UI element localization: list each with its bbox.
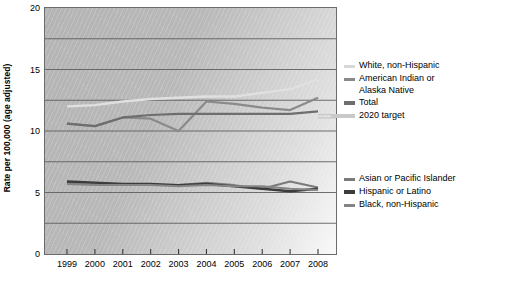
legend-item-label: Asian or Pacific Islander xyxy=(359,173,456,185)
series-lines xyxy=(67,79,318,191)
legend-swatch xyxy=(344,190,355,194)
legend-item-label: White, non-Hispanic xyxy=(359,60,440,72)
legend-swatch xyxy=(344,204,355,207)
legend-swatch xyxy=(344,178,355,181)
legend-item-2020-target: 2020 target xyxy=(331,110,506,122)
x-axis-tick-label: 2000 xyxy=(85,259,105,269)
plot-area xyxy=(44,7,337,255)
x-axis-tick-label: 2008 xyxy=(308,259,328,269)
legend-item: Black, non-Hispanic xyxy=(344,199,506,211)
series-line xyxy=(67,111,318,126)
legend-item: Total xyxy=(344,97,506,109)
legend-item-label: Total xyxy=(359,97,378,109)
y-axis-tick-label: 0 xyxy=(18,250,40,259)
y-axis-title: Rate per 100,000 (age adjusted) xyxy=(0,0,14,256)
x-axis-tick-label: 2003 xyxy=(169,259,189,269)
line-chart: Rate per 100,000 (age adjusted) 05101520… xyxy=(0,0,506,281)
y-axis-tick-label: 5 xyxy=(18,188,40,197)
x-axis-tick-label: 2006 xyxy=(252,259,272,269)
plot-svg xyxy=(45,8,336,254)
x-axis-tick-label: 1999 xyxy=(57,259,77,269)
legend-item: Hispanic or Latino xyxy=(344,186,506,198)
x-axis-tick-label: 2007 xyxy=(280,259,300,269)
x-axis-tick-label: 2005 xyxy=(224,259,244,269)
legend-item: White, non-Hispanic xyxy=(344,60,506,72)
legend-swatch xyxy=(344,65,355,68)
y-axis-tick-labels: 05101520 xyxy=(14,0,40,281)
legend-group-lower: Asian or Pacific IslanderHispanic or Lat… xyxy=(344,173,506,212)
y-axis-title-label: Rate per 100,000 (age adjusted) xyxy=(2,64,12,193)
gridlines xyxy=(45,39,336,224)
legend-item-label: Black, non-Hispanic xyxy=(359,199,439,211)
y-axis-tick-label: 15 xyxy=(18,65,40,74)
y-axis-tick-label: 20 xyxy=(18,4,40,13)
legend-swatch xyxy=(344,101,355,105)
legend-item: American Indian or Alaska Native xyxy=(344,73,506,96)
legend-item-label: 2020 target xyxy=(359,110,405,122)
x-axis-tick-label: 2001 xyxy=(113,259,133,269)
y-axis-tick-label: 10 xyxy=(18,127,40,136)
x-axis-tick-label: 2004 xyxy=(196,259,216,269)
x-axis-tick-marks xyxy=(67,249,318,254)
legend-group-upper: White, non-HispanicAmerican Indian or Al… xyxy=(344,60,506,123)
x-axis-tick-labels: 1999200020012002200320042005200620072008 xyxy=(44,259,337,279)
series-line xyxy=(67,79,318,106)
legend-swatch xyxy=(344,78,355,81)
legend-item-label: Hispanic or Latino xyxy=(359,186,431,198)
legend-item-label: American Indian or Alaska Native xyxy=(359,73,435,96)
legend-swatch xyxy=(331,114,355,118)
x-axis-tick-label: 2002 xyxy=(141,259,161,269)
legend-item: Asian or Pacific Islander xyxy=(344,173,506,185)
